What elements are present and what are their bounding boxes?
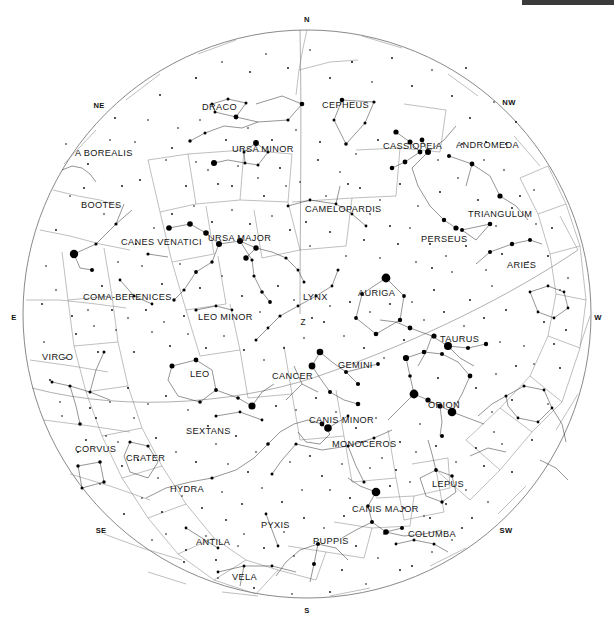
- horizon-circle: [23, 30, 591, 598]
- label-triangulum: TRIANGULUM: [468, 209, 532, 219]
- label-auriga: AURIGA: [358, 288, 396, 298]
- label-ursa-minor: URSA MINOR: [232, 144, 294, 154]
- label-bootes: BOOTES: [81, 200, 121, 210]
- label-draco: DRACO: [202, 102, 237, 112]
- label-camelopardis: CAMELOPARDIS: [305, 204, 382, 214]
- label-leo-minor: LEO MINOR: [198, 312, 253, 322]
- star-chart: DRACO CEPHEUS URSA MINOR CASSIOPEIA ANDR…: [0, 0, 614, 621]
- label-corona-borealis: A BOREALIS: [75, 148, 133, 158]
- label-gemini: GEMINI: [338, 360, 373, 370]
- label-crater: CRATER: [126, 453, 165, 463]
- label-cepheus: CEPHEUS: [322, 100, 369, 110]
- label-taurus: TAURUS: [440, 334, 479, 344]
- cardinal-ne: NE: [93, 101, 104, 110]
- label-cassiopeia: CASSIOPEIA: [383, 141, 443, 151]
- cardinal-e: E: [11, 313, 16, 322]
- constellation-labels: DRACO CEPHEUS URSA MINOR CASSIOPEIA ANDR…: [42, 100, 536, 582]
- cardinal-s: S: [304, 606, 309, 615]
- label-antila: ANTILA: [196, 537, 231, 547]
- cardinal-nw: NW: [502, 98, 516, 107]
- label-leo: LEO: [190, 369, 209, 379]
- label-puppis: PUPPIS: [313, 536, 349, 546]
- constellation-boundaries: [26, 30, 590, 596]
- label-virgo: VIRGO: [42, 352, 73, 362]
- zenith-label: Z: [300, 318, 305, 327]
- label-hydra: HYDRA: [170, 484, 204, 494]
- label-lepus: LEPUS: [432, 479, 464, 489]
- label-cancer: CANCER: [272, 371, 313, 381]
- label-ursa-major: URSA MAJOR: [208, 233, 271, 243]
- cardinal-labels: N NE E SE S SW W NW: [11, 15, 602, 615]
- label-coma-berenices: COMA-BERENICES: [83, 292, 172, 302]
- label-corvus: CORVUS: [75, 444, 116, 454]
- label-aries: ARIES: [507, 260, 536, 270]
- star-chart-svg: DRACO CEPHEUS URSA MINOR CASSIOPEIA ANDR…: [0, 0, 614, 621]
- label-canis-major: CANIS MAJOR: [352, 504, 419, 514]
- label-orion: ORION: [428, 400, 460, 410]
- label-sextans: SEXTANS: [186, 426, 231, 436]
- label-monoceros: MONOCEROS: [332, 439, 396, 449]
- label-vela: VELA: [232, 572, 257, 582]
- cardinal-w: W: [594, 313, 602, 322]
- constellation-boundary-polygons: [62, 104, 586, 594]
- label-canes-venatici: CANES VENATICI: [121, 237, 202, 247]
- cardinal-n: N: [304, 15, 310, 24]
- label-lynx: LYNX: [303, 292, 328, 302]
- constellation-lines: [52, 96, 568, 586]
- label-andromeda: ANDROMEDA: [456, 140, 519, 150]
- cardinal-sw: SW: [500, 526, 513, 535]
- label-pyxis: PYXIS: [261, 520, 290, 530]
- cardinal-se: SE: [96, 526, 107, 535]
- label-canis-minor: CANIS MINOR: [309, 415, 374, 425]
- label-perseus: PERSEUS: [421, 234, 467, 244]
- label-columba: COLUMBA: [408, 529, 456, 539]
